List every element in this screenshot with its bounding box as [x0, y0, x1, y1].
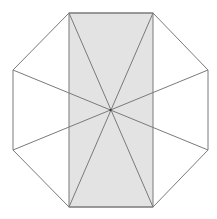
center-point: [110, 109, 112, 111]
octagon-diagram: [0, 0, 217, 219]
